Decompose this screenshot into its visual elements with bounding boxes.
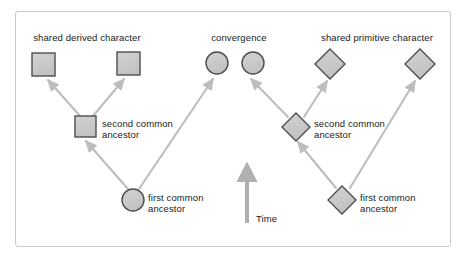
label-convergence: convergence bbox=[211, 32, 267, 43]
label-time-axis: Time bbox=[256, 213, 277, 224]
label-first-common-ancestor-right: first common ancestor bbox=[360, 192, 416, 214]
label-second-common-ancestor-right: second common ancestor bbox=[314, 118, 385, 140]
label-second-common-ancestor-left: second common ancestor bbox=[102, 118, 173, 140]
label-shared-derived-character: shared derived character bbox=[33, 32, 140, 43]
diagram-canvas: shared derived character convergence sha… bbox=[0, 0, 466, 259]
label-shared-primitive-character: shared primitive character bbox=[321, 32, 433, 43]
label-first-common-ancestor-left: first common ancestor bbox=[148, 192, 204, 214]
